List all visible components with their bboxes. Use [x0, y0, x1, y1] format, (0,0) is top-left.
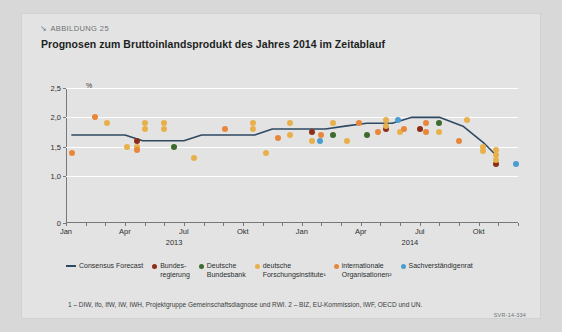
x-tick-mark	[459, 223, 460, 226]
data-point	[480, 148, 486, 154]
x-tick-mark	[439, 223, 440, 226]
data-point	[395, 117, 401, 123]
y-tick-label: 2,0	[51, 113, 61, 122]
x-axis-year-label: 2014	[402, 238, 419, 247]
x-tick-mark	[86, 223, 87, 226]
legend-item[interactable]: DeutscheBundesbank	[199, 262, 246, 280]
data-point	[330, 132, 336, 138]
x-tick-mark	[125, 223, 126, 226]
x-axis-year-label: 2013	[166, 238, 183, 247]
data-point	[142, 126, 148, 132]
data-point	[436, 120, 442, 126]
legend-item-label: DeutscheBundesbank	[207, 262, 246, 280]
legend-dot-swatch	[334, 264, 339, 269]
legend-dot-swatch	[401, 264, 406, 269]
x-tick-label: Okt	[237, 227, 249, 236]
x-tick-label: Apr	[119, 227, 131, 236]
x-tick-mark	[518, 223, 519, 226]
data-point	[309, 138, 315, 144]
legend-line-swatch	[66, 265, 76, 267]
x-tick-label: Jan	[296, 227, 308, 236]
y-tick-label: 1,0	[51, 172, 61, 181]
data-point	[464, 117, 470, 123]
legend-item[interactable]: Consensus Forecast	[66, 262, 143, 271]
data-point	[191, 155, 197, 161]
x-tick-label: Jul	[415, 227, 425, 236]
x-tick-mark	[223, 223, 224, 226]
data-point	[287, 132, 293, 138]
figure-kicker: ↘ABBILDUNG 25	[40, 24, 109, 33]
x-tick-mark	[204, 223, 205, 226]
legend-item-label: Consensus Forecast	[79, 262, 143, 271]
x-tick-label: Okt	[473, 227, 485, 236]
y-tick-label: 1,5	[51, 142, 61, 151]
data-point	[493, 157, 499, 163]
data-point	[161, 126, 167, 132]
legend-item-label: internationaleOrganisationen²	[342, 262, 392, 280]
figure-kicker-label: ABBILDUNG 25	[50, 24, 109, 33]
x-tick-mark	[302, 223, 303, 226]
x-tick-label: Jul	[179, 227, 189, 236]
data-point	[309, 129, 315, 135]
data-point	[287, 120, 293, 126]
x-tick-mark	[282, 223, 283, 226]
plot-area: 01,01,52,02,5 JanAprJulOktJanAprJulOkt20…	[66, 88, 518, 223]
x-tick-mark	[341, 223, 342, 226]
arrow-down-right-icon: ↘	[40, 24, 47, 33]
data-point	[134, 147, 140, 153]
x-tick-label: Apr	[355, 227, 367, 236]
legend-item[interactable]: deutscheForschungsinstitute¹	[255, 262, 325, 280]
x-tick-mark	[145, 223, 146, 226]
legend-item[interactable]: Bundes-regierung	[152, 262, 190, 280]
data-point	[317, 138, 323, 144]
data-point	[401, 126, 407, 132]
x-tick-mark	[361, 223, 362, 226]
consensus-forecast-line	[66, 88, 518, 223]
data-point	[383, 123, 389, 129]
data-point	[263, 150, 269, 156]
data-point	[124, 144, 130, 150]
data-point	[104, 120, 110, 126]
legend-item-label: Sachverständigenrat	[409, 262, 473, 271]
figure-footnote: 1 – DIW, ifo, IfW, IW, IWH, Projektgrupp…	[68, 301, 422, 308]
data-point	[423, 120, 429, 126]
x-tick-mark	[66, 223, 67, 226]
data-point	[222, 126, 228, 132]
data-point	[375, 129, 381, 135]
x-tick-mark	[321, 223, 322, 226]
chart-legend: Consensus ForecastBundes-regierungDeutsc…	[66, 262, 536, 280]
x-tick-mark	[105, 223, 106, 226]
data-point	[423, 129, 429, 135]
data-point	[344, 138, 350, 144]
figure-title: Prognosen zum Bruttoinlandsprodukt des J…	[41, 38, 385, 50]
data-point	[513, 161, 519, 167]
data-point	[356, 120, 362, 126]
legend-dot-swatch	[255, 264, 260, 269]
x-tick-mark	[184, 223, 185, 226]
figure-source-code: SVR-14-334	[494, 312, 526, 318]
x-tick-mark	[498, 223, 499, 226]
x-tick-mark	[263, 223, 264, 226]
data-point	[456, 138, 462, 144]
y-tick-label: 2,5	[51, 84, 61, 93]
data-point	[436, 129, 442, 135]
data-point	[69, 150, 75, 156]
x-tick-label: Jan	[60, 227, 72, 236]
legend-dot-swatch	[152, 264, 157, 269]
legend-item-label: Bundes-regierung	[160, 262, 190, 280]
x-tick-mark	[420, 223, 421, 226]
legend-item-label: deutscheForschungsinstitute¹	[263, 262, 325, 280]
figure-panel: ↘ABBILDUNG 25 Prognosen zum Bruttoinland…	[22, 14, 540, 318]
x-tick-mark	[479, 223, 480, 226]
legend-item[interactable]: internationaleOrganisationen²	[334, 262, 392, 280]
data-point	[275, 135, 281, 141]
data-point	[364, 132, 370, 138]
data-point	[250, 126, 256, 132]
x-tick-mark	[400, 223, 401, 226]
x-tick-mark	[243, 223, 244, 226]
x-tick-mark	[380, 223, 381, 226]
data-point	[92, 114, 98, 120]
legend-item[interactable]: Sachverständigenrat	[401, 262, 473, 271]
legend-dot-swatch	[199, 264, 204, 269]
x-tick-mark	[164, 223, 165, 226]
